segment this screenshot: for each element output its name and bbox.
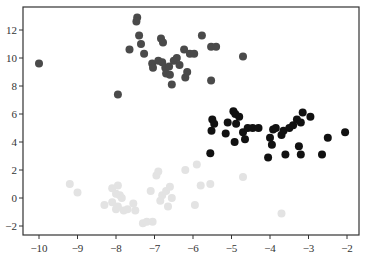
data-point <box>232 120 240 128</box>
data-point <box>129 200 137 208</box>
x-tick-label: −6 <box>187 242 199 254</box>
data-point <box>154 167 162 175</box>
x-tick-label: −4 <box>264 242 276 254</box>
data-point <box>198 32 206 40</box>
y-tick-label: 6 <box>12 108 18 120</box>
x-tick-label: −2 <box>341 242 353 254</box>
data-point <box>74 188 82 196</box>
data-point <box>306 113 314 121</box>
data-point <box>166 183 174 191</box>
data-point <box>206 149 214 157</box>
x-tick-label: −9 <box>72 242 84 254</box>
data-point <box>191 201 199 209</box>
data-point <box>207 76 215 84</box>
data-point <box>181 166 189 174</box>
x-tick-label: −3 <box>303 242 315 254</box>
data-point <box>118 194 126 202</box>
y-tick-label: 10 <box>6 52 18 64</box>
x-tick-label: −7 <box>149 242 161 254</box>
data-point <box>212 43 220 51</box>
axes-frame <box>23 7 359 235</box>
data-point <box>255 124 263 132</box>
data-point <box>156 197 164 205</box>
data-point <box>190 50 198 58</box>
data-point <box>318 151 326 159</box>
data-point <box>224 118 232 126</box>
data-point <box>268 141 276 149</box>
data-point <box>281 151 289 159</box>
data-point <box>140 50 148 58</box>
data-point <box>208 127 216 135</box>
data-point <box>35 60 43 68</box>
data-point <box>100 201 108 209</box>
data-point <box>222 130 230 138</box>
y-axis: −2024681012 <box>5 24 23 232</box>
data-point <box>135 32 143 40</box>
data-point <box>149 218 157 226</box>
data-point <box>164 202 172 210</box>
data-point <box>114 90 122 98</box>
plot-area <box>35 13 349 227</box>
x-tick-label: −8 <box>110 242 122 254</box>
series-cluster-black <box>206 107 349 161</box>
data-point <box>239 173 247 181</box>
data-point <box>66 180 74 188</box>
data-point <box>114 181 122 189</box>
data-point <box>168 194 176 202</box>
data-point <box>264 153 272 161</box>
data-point <box>132 18 140 26</box>
data-point <box>173 54 181 62</box>
data-point <box>124 205 132 213</box>
data-point <box>235 113 243 121</box>
scatter-chart: −10−9−8−7−6−5−4−3−2 −2024681012 <box>0 0 365 267</box>
data-point <box>206 180 214 188</box>
data-point <box>210 120 218 128</box>
x-axis: −10−9−8−7−6−5−4−3−2 <box>30 235 352 254</box>
series-cluster-light-gray <box>66 160 286 227</box>
data-point <box>149 64 157 72</box>
data-point <box>266 134 274 142</box>
y-tick-label: 2 <box>12 164 18 176</box>
data-point <box>193 160 201 168</box>
data-point <box>241 135 249 143</box>
data-point <box>299 109 307 117</box>
x-tick-label: −5 <box>226 242 238 254</box>
data-point <box>131 207 139 215</box>
data-point <box>166 71 174 79</box>
data-point <box>231 138 239 146</box>
data-point <box>341 128 349 136</box>
data-point <box>168 81 176 89</box>
data-point <box>137 40 145 48</box>
y-tick-label: −2 <box>5 220 17 232</box>
data-point <box>295 142 303 150</box>
y-tick-label: 0 <box>12 192 18 204</box>
data-point <box>297 118 305 126</box>
data-point <box>278 209 286 217</box>
data-point <box>165 62 173 70</box>
data-point <box>126 46 134 54</box>
data-point <box>147 187 155 195</box>
data-point <box>297 151 305 159</box>
y-tick-label: 12 <box>6 24 17 36</box>
data-point <box>239 53 247 61</box>
series-cluster-dark-gray <box>35 13 247 98</box>
x-tick-label: −10 <box>30 242 48 254</box>
data-point <box>324 134 332 142</box>
data-point <box>176 61 184 69</box>
y-tick-label: 4 <box>12 136 18 148</box>
y-tick-label: 8 <box>12 80 18 92</box>
data-point <box>197 181 205 189</box>
data-point <box>272 124 280 132</box>
data-point <box>159 39 167 47</box>
data-point <box>183 68 191 76</box>
